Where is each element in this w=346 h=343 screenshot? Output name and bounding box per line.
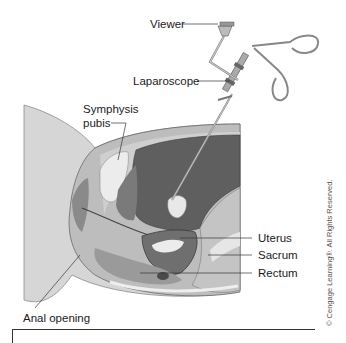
label-rectum: Rectum: [258, 267, 298, 280]
laparoscopy-diagram: [0, 0, 346, 343]
frame-left-rule: [12, 329, 13, 343]
frame-top-rule: [12, 329, 315, 330]
label-symphysis-pubis-line2: pubis: [83, 117, 111, 130]
label-uterus: Uterus: [258, 232, 292, 245]
label-symphysis-pubis-line1: Symphysis: [83, 103, 139, 116]
label-viewer: Viewer: [150, 18, 185, 31]
label-sacrum: Sacrum: [258, 249, 298, 262]
viewer-cap: [220, 22, 234, 26]
label-anal-opening: Anal opening: [23, 312, 90, 325]
grip-handle-lower: [254, 48, 288, 100]
viewer-eyepiece: [218, 26, 232, 36]
grip-handle-upper: [252, 36, 318, 53]
label-laparoscope: Laparoscope: [133, 75, 200, 88]
copyright-notice: © Cengage Learning®. All Rights Reserved…: [325, 179, 334, 326]
